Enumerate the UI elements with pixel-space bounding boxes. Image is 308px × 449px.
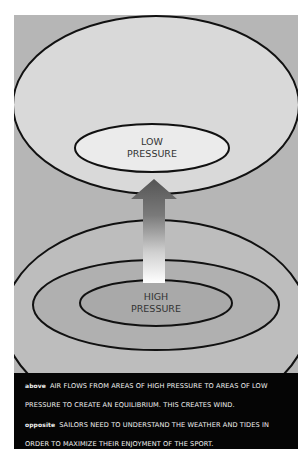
- caption-key-above: above: [25, 382, 46, 389]
- high-pressure-label-line1: HIGH: [144, 291, 168, 302]
- pressure-diagram: LOW PRESSURE HIGH PRESSURE: [14, 15, 298, 373]
- pressure-diagram-svg: LOW PRESSURE HIGH PRESSURE: [14, 15, 298, 373]
- caption-line: PRESSURE TO CREATE AN EQUILIBRIUM. THIS …: [25, 399, 298, 418]
- caption-key-opposite: opposite: [25, 421, 55, 428]
- high-pressure-label-line2: PRESSURE: [131, 303, 181, 314]
- caption-line: aboveAIR FLOWS FROM AREAS OF HIGH PRESSU…: [25, 380, 298, 399]
- caption-line: oppositeSAILORS NEED TO UNDERSTAND THE W…: [25, 419, 298, 438]
- low-pressure-label-line2: PRESSURE: [127, 148, 177, 159]
- low-pressure-label-line1: LOW: [141, 136, 163, 147]
- caption-text: PRESSURE TO CREATE AN EQUILIBRIUM. THIS …: [25, 401, 235, 409]
- caption-box: aboveAIR FLOWS FROM AREAS OF HIGH PRESSU…: [14, 373, 298, 449]
- caption-text: AIR FLOWS FROM AREAS OF HIGH PRESSURE TO…: [50, 382, 268, 390]
- caption-text: ORDER TO MAXIMIZE THEIR ENJOYMENT OF THE…: [25, 440, 214, 448]
- caption-line: ORDER TO MAXIMIZE THEIR ENJOYMENT OF THE…: [25, 438, 298, 449]
- caption-text: SAILORS NEED TO UNDERSTAND THE WEATHER A…: [59, 421, 269, 429]
